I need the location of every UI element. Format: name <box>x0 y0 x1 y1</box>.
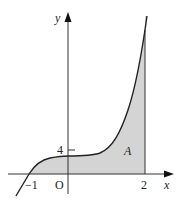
y-axis-label: y <box>54 11 61 25</box>
origin-label: O <box>55 178 64 192</box>
x-tick-label-neg1: −1 <box>25 178 38 192</box>
region-label-a: A <box>123 144 132 158</box>
y-tick-label-4: 4 <box>57 143 63 157</box>
graph: y x O −1 2 4 A <box>0 0 182 206</box>
x-tick-label-2: 2 <box>141 178 147 192</box>
x-axis-arrow-icon <box>164 171 174 178</box>
x-axis-label: x <box>163 178 170 192</box>
y-axis-arrow-icon <box>65 12 72 22</box>
